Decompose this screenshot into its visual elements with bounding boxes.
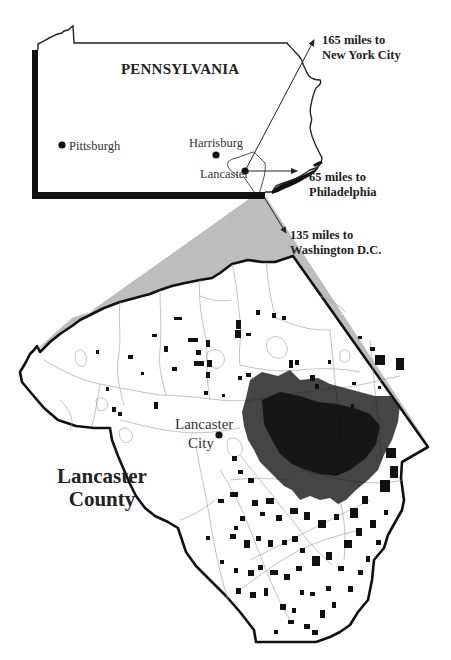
pennsylvania-outline xyxy=(32,26,322,199)
harrisburg-label: Harrisburg xyxy=(189,137,243,150)
lancaster-city-label: Lancaster City xyxy=(175,415,227,453)
county-name-line2: County xyxy=(32,488,172,511)
arrow-nyc xyxy=(245,40,314,171)
washington-distance-label: 135 miles to Washington D.C. xyxy=(290,228,381,257)
washington-distance-line1: 135 miles to xyxy=(290,228,381,243)
county-name-label: Lancaster County xyxy=(32,465,172,511)
lancaster-city-line1: Lancaster xyxy=(175,415,227,434)
lancaster-city-line2: City xyxy=(175,434,227,453)
nyc-distance-label: 165 miles to New York City xyxy=(322,33,401,62)
philadelphia-distance-line2: Philadelphia xyxy=(309,185,376,200)
pittsburgh-dot-icon xyxy=(58,141,65,148)
nyc-distance-line2: New York City xyxy=(322,48,401,63)
lancaster-label: Lancaster xyxy=(200,168,249,181)
philadelphia-distance-line1: 65 miles to xyxy=(309,170,376,185)
philadelphia-distance-label: 65 miles to Philadelphia xyxy=(309,170,376,199)
county-name-line1: Lancaster xyxy=(32,465,172,488)
nyc-distance-line1: 165 miles to xyxy=(322,33,401,48)
harrisburg-dot-icon xyxy=(212,151,219,158)
state-name-label: PENNSYLVANIA xyxy=(121,62,239,77)
map-graphics xyxy=(0,0,451,660)
lancaster-location-map: PENNSYLVANIA Pittsburgh Harrisburg Lanca… xyxy=(0,0,451,660)
pittsburgh-label: Pittsburgh xyxy=(69,140,120,153)
washington-distance-line2: Washington D.C. xyxy=(290,243,381,258)
